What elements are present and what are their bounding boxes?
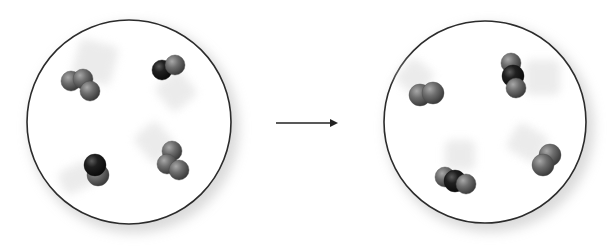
gray-atom [506, 78, 526, 98]
gray-atom [422, 82, 444, 104]
motion-trail [445, 140, 475, 170]
reaction-diagram [0, 0, 611, 251]
motion-trail [525, 60, 560, 95]
gray-atom [169, 160, 189, 180]
reactants-container [27, 20, 231, 224]
arrow-head [330, 119, 338, 127]
products-container [384, 21, 586, 223]
gray-atom [80, 81, 100, 101]
reaction-arrow-icon [276, 119, 338, 127]
gray-atom [165, 55, 185, 75]
black-atom [84, 154, 106, 176]
diatomic-gray-molecule [409, 82, 444, 106]
gray-atom [532, 154, 554, 176]
diagram-canvas [0, 0, 611, 251]
gray-atom [456, 174, 476, 194]
